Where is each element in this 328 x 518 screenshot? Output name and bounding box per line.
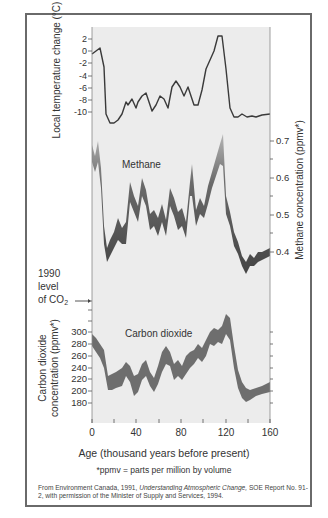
co2-right-ticks xyxy=(270,332,273,403)
temp-tick-label: -8 xyxy=(79,95,87,105)
co2-1990-annotation-line1: 1990 xyxy=(38,268,61,279)
x-axis-label: Age (thousand years before present) xyxy=(0,447,328,459)
co2-series-label: Carbon dioxide xyxy=(125,328,193,339)
temperature-axis-ticks xyxy=(88,39,92,112)
co2-1990-annotation-line3: of CO2 xyxy=(38,294,68,306)
co2-tick-label: 200 xyxy=(71,385,87,396)
ice-core-chart: 2 0 -2 -4 -6 -8 -10 Local temperature ch… xyxy=(0,0,328,518)
methane-tick-label: 0.7 xyxy=(276,135,289,146)
x-tick-label: 0 xyxy=(89,427,95,438)
co2-axis-label-line1: Carbon dioxide xyxy=(37,334,48,402)
methane-tick-label: 0.4 xyxy=(276,246,289,257)
co2-tick-label: 260 xyxy=(71,350,87,361)
x-tick-label: 120 xyxy=(218,427,235,438)
co2-tick-label: 280 xyxy=(71,338,87,349)
x-tick-label: 80 xyxy=(175,427,187,438)
methane-axis-label: Methane concentration (ppmv*) xyxy=(294,120,305,260)
co2-axis-label-line2: concentration (ppmv*) xyxy=(49,319,60,417)
temp-tick-label: -2 xyxy=(79,58,87,68)
temp-tick-label: -6 xyxy=(79,83,87,93)
co2-1990-arrow xyxy=(75,299,91,303)
co2-tick-label: 220 xyxy=(71,373,87,384)
methane-series-label: Methane xyxy=(122,159,161,170)
co2-1990-annotation-line2: level xyxy=(38,281,59,292)
co2-tick-label: 240 xyxy=(71,362,87,373)
temperature-axis-label: Local temperature change (°C) xyxy=(51,2,62,139)
methane-axis-ticks xyxy=(270,141,274,252)
co2-tick-label: 300 xyxy=(71,326,87,337)
co2-axis-ticks xyxy=(88,301,92,403)
methane-tick-label: 0.5 xyxy=(276,209,289,220)
temp-tick-label: 2 xyxy=(82,34,87,44)
temp-tick-label: -4 xyxy=(79,71,87,81)
source-credit: From Environment Canada, 1991, Understan… xyxy=(38,484,308,501)
co2-tick-label: 180 xyxy=(71,397,87,408)
x-tick-label: 40 xyxy=(130,427,142,438)
temp-tick-label: 0 xyxy=(82,46,87,56)
ppmv-footnote: *ppmv = parts per million by volume xyxy=(0,465,328,475)
methane-tick-label: 0.6 xyxy=(276,172,289,183)
x-tick-label: 160 xyxy=(262,427,279,438)
temp-tick-label: -10 xyxy=(74,107,87,117)
